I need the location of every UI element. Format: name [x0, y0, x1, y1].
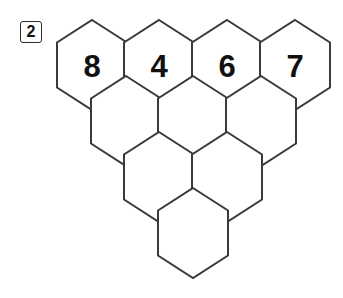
- hexagon-grid: 8467: [0, 0, 343, 298]
- hexagon-cell-value: 6: [218, 49, 235, 84]
- hexagon-cells-layer: 8467: [57, 20, 330, 278]
- hexagon-cell-value: 8: [83, 49, 100, 84]
- puzzle-canvas: 2 8467: [0, 0, 343, 298]
- hexagon-cell-value: 4: [150, 49, 168, 84]
- hexagon-cell-value: 7: [286, 49, 303, 84]
